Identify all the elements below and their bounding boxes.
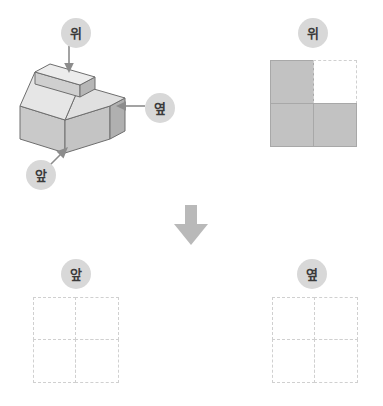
side-view-grid [272,297,357,382]
top-view-grid [270,60,356,146]
top-view-cell-1-1[interactable] [313,103,357,147]
side-view-cell-1-1[interactable] [314,339,358,383]
side-view-cell-0-1[interactable] [314,297,358,341]
label-badge-side-view: 옆 [297,259,327,289]
front-view-cell-1-1[interactable] [75,339,119,383]
front-view-cell-0-0[interactable] [33,297,77,341]
label-badge-top-solid: 위 [61,18,91,48]
front-view-cell-1-0[interactable] [33,339,77,383]
label-badge-front-view: 앞 [61,259,91,289]
front-view-grid [33,297,118,382]
side-arrow-left-icon [115,99,145,113]
top-view-cell-1-0[interactable] [270,103,314,147]
side-view-cell-0-0[interactable] [272,297,316,341]
flow-down-arrow-icon [172,205,210,247]
label-badge-top-view: 위 [298,18,328,48]
label-badge-front-solid: 앞 [26,160,56,190]
label-badge-side-solid: 옆 [145,93,175,123]
top-view-cell-0-1[interactable] [313,60,357,104]
top-view-cell-0-0[interactable] [270,60,314,104]
side-view-cell-1-0[interactable] [272,339,316,383]
front-view-cell-0-1[interactable] [75,297,119,341]
top-arrow-down-icon [62,46,76,74]
